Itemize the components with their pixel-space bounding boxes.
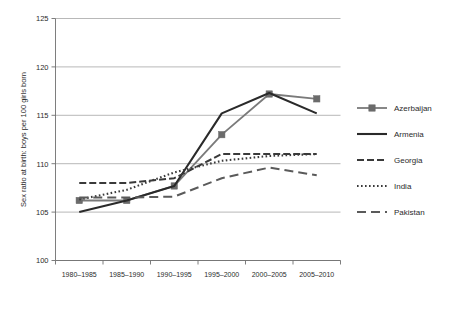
legend-label-georgia: Georgia [394,156,423,165]
x-tick-label: 1985–1990 [109,271,144,278]
x-tick-label: 1995–2000 [204,271,239,278]
series-line-georgia [79,154,317,183]
gridlines [56,19,341,261]
x-tick-label: 1990–1995 [157,271,192,278]
y-tick-label: 120 [36,63,49,72]
chart-legend: AzerbaijanArmeniaGeorgiaIndiaPakistan [357,104,432,217]
y-axis-title-text: Sex ratio at birth: boys per 100 girls b… [19,72,28,207]
y-tick-label: 100 [36,256,49,265]
data-series [76,91,320,212]
x-axis [56,261,341,265]
x-tick-label: 2005–2010 [299,271,334,278]
series-marker-azerbaijan [219,131,225,137]
series-line-armenia [79,93,317,212]
x-tick-label: 1980–1985 [62,271,97,278]
chart-figure: 100105110115120125 1980–19851985–1990199… [0,0,461,309]
y-tick-label: 125 [36,14,49,23]
y-tick-label: 115 [37,111,49,120]
series-line-azerbaijan [79,94,317,200]
series-marker-azerbaijan [314,96,320,102]
y-tick-labels: 100105110115120125 [36,14,49,265]
x-tick-label: 2000–2005 [252,271,287,278]
line-chart: 100105110115120125 1980–19851985–1990199… [0,0,461,309]
legend-marker-azerbaijan [369,105,375,111]
y-tick-label: 110 [37,160,49,169]
x-tick-labels: 1980–19851985–19901990–19951995–20002000… [62,271,335,278]
y-tick-label: 105 [36,208,49,217]
y-axis [52,19,56,261]
y-axis-title: Sex ratio at birth: boys per 100 girls b… [19,72,28,207]
figure-caption [0,301,461,309]
legend-label-azerbaijan: Azerbaijan [394,104,432,113]
legend-label-armenia: Armenia [394,130,424,139]
legend-label-pakistan: Pakistan [394,208,425,217]
legend-label-india: India [394,182,412,191]
